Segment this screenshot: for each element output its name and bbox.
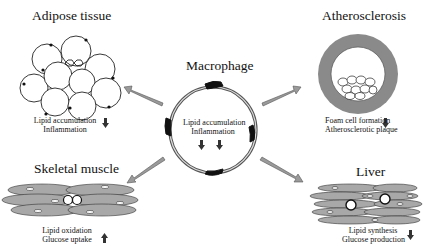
macrophage-effects: Lipid accumulation Inflammation [183,118,243,136]
adipose-down-arrow [102,118,109,128]
macrophage-down-arrow-1 [198,140,205,150]
liver-effects: Lipid synthesis Glucose production [342,226,404,244]
skeletal-muscle-illustration [2,184,138,216]
atherosclerosis-effects: Foam cell formation Atherosclerotic plaq… [325,116,381,134]
arrow-to-atherosclerosis [262,86,301,106]
atherosclerosis-title: Atherosclerosis [322,8,406,24]
artery-cross-section-illustration [318,34,398,114]
skeletal-up-arrow [101,233,108,243]
adipose-effects: Lipid accumulation Inflammation [30,116,100,134]
liver-down-arrow [407,230,414,240]
liver-cells-illustration [310,184,422,224]
arrow-to-liver [260,157,303,182]
adipose-title: Adipose tissue [32,8,111,24]
liver-title: Liver [356,164,385,180]
arrow-to-adipose [124,86,163,106]
macrophage-down-arrow-2 [216,140,223,150]
skeletal-muscle-title: Skeletal muscle [34,161,119,177]
arrow-to-skeletal-muscle [127,157,165,183]
skeletal-muscle-effects: Lipid oxidation Glucose uptake [40,226,94,244]
macrophage-title: Macrophage [186,58,253,74]
